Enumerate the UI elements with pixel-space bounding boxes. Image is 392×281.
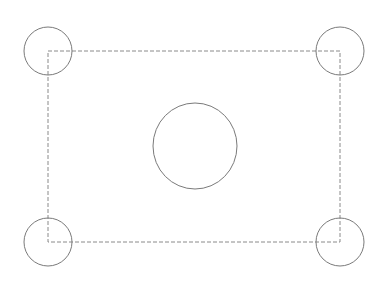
dashed-rectangle [48,51,340,242]
corner-circles [24,27,364,266]
center-circle [153,103,237,189]
diagram-canvas [0,0,392,281]
